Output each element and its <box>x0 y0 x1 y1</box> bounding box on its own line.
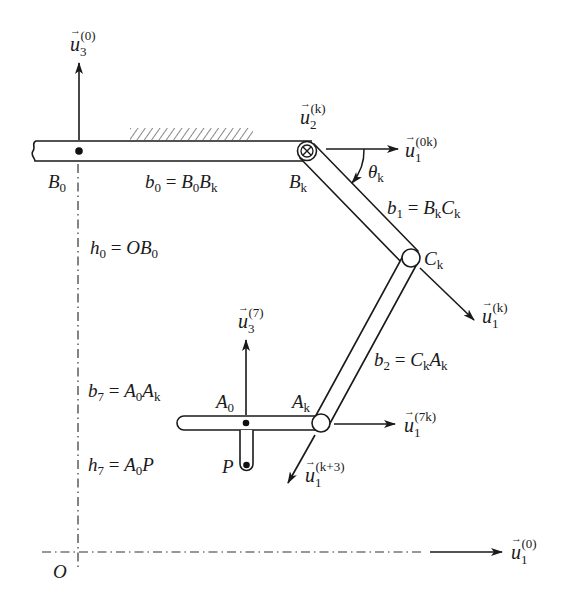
linkage-diagram: →u3(0) →u2(k) →u1(0k) →u1(k) →u3(7) →u1(… <box>0 0 573 600</box>
u1-k-label: →u1(k) <box>482 306 508 326</box>
ck-revolute-joint <box>402 249 420 267</box>
h0-equation: h0 = OB0 <box>90 238 158 257</box>
u1-k3-label: →u1(k+3) <box>305 465 345 485</box>
ak-label: Ak <box>292 392 310 411</box>
u2-k-label: →u2(k) <box>300 107 326 127</box>
u1-k-arrow <box>420 268 474 320</box>
bk-label: Bk <box>289 172 307 191</box>
ground-hatching <box>130 128 253 140</box>
ck-label: Ck <box>424 249 443 268</box>
a0-label: A0 <box>216 392 234 411</box>
link-b2 <box>314 254 418 427</box>
u3-0-label: →u3(0) <box>70 34 96 54</box>
b7-equation: b7 = A0Ak <box>88 381 160 400</box>
h7-equation: h7 = A0P <box>88 455 154 474</box>
u1-0-label: →u1(0) <box>511 542 537 562</box>
bk-revolute-joint <box>298 142 317 161</box>
fixed-bar-b0 <box>32 141 312 161</box>
theta-k-angle-arc <box>352 149 364 183</box>
b0-equation: b0 = B0Bk <box>145 172 217 191</box>
u1-7k-label: →u1(7k) <box>404 415 436 435</box>
b0-point-dot <box>75 147 83 155</box>
o-label: O <box>53 562 67 581</box>
ak-revolute-joint <box>312 414 330 432</box>
b1-equation: b1 = BkCk <box>387 198 461 217</box>
u1-0k-label: →u1(0k) <box>405 140 437 160</box>
theta-k-label: θk <box>368 162 384 181</box>
p-label: P <box>222 457 234 476</box>
u3-7-label: →u3(7) <box>238 311 264 331</box>
a0-point-dot <box>243 420 250 427</box>
b0-label: B0 <box>48 172 66 191</box>
b2-equation: b2 = CkAk <box>374 350 448 369</box>
p-point-dot <box>243 462 250 469</box>
